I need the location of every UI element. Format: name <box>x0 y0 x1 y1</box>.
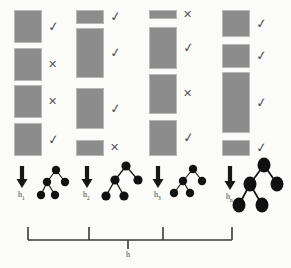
hypothesis-label-subscript: 3 <box>158 195 161 201</box>
tree-node <box>61 178 69 186</box>
tree-node <box>198 177 206 185</box>
tree-node <box>52 166 60 174</box>
down-arrow-shaft <box>156 166 160 180</box>
tree-node <box>256 198 269 213</box>
ensemble-label: h <box>126 250 130 259</box>
vector-overlay <box>0 0 291 268</box>
tree-node <box>110 175 119 184</box>
tree-node <box>133 175 142 184</box>
tree-node <box>258 158 271 173</box>
tree-node <box>189 165 197 173</box>
tree-node <box>51 191 59 199</box>
down-arrow-shaft <box>20 166 24 180</box>
hypothesis-label-subscript: n <box>230 197 233 203</box>
down-arrow-head <box>153 179 164 188</box>
tree-node <box>37 191 45 199</box>
tree-node <box>244 177 257 192</box>
hypothesis-label: h1 <box>18 190 25 201</box>
tree-node <box>43 178 51 186</box>
tree-node <box>179 177 187 185</box>
tree-node <box>170 189 178 197</box>
tree-node <box>119 191 128 200</box>
hypothesis-label: h3 <box>154 190 161 201</box>
hypothesis-label: h2 <box>83 190 90 201</box>
hypothesis-label: hn <box>226 192 233 203</box>
tree-node <box>121 161 130 170</box>
hypothesis-label-subscript: 2 <box>87 195 90 201</box>
tree-node <box>233 198 246 213</box>
down-arrow-shaft <box>228 166 232 182</box>
ensemble-hypotheses-diagram: ✓✕✕✓✓✓✓✕✕✓✕✓✓✓✓✓ h1h2h3hnh <box>0 0 291 268</box>
hypothesis-label-subscript: 1 <box>22 195 25 201</box>
tree-node <box>186 189 194 197</box>
tree-node <box>271 177 284 192</box>
down-arrow-head <box>82 179 93 188</box>
down-arrow-shaft <box>85 166 89 180</box>
down-arrow-head <box>225 181 236 190</box>
tree-node <box>101 191 110 200</box>
down-arrow-head <box>17 179 28 188</box>
